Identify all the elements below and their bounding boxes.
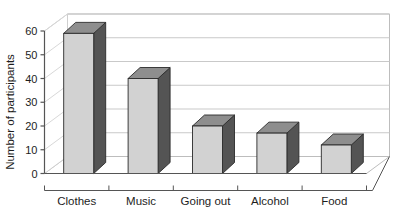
x-tick-label: Food bbox=[321, 195, 347, 207]
x-tick-label: Going out bbox=[181, 195, 232, 207]
y-tick-label: 0 bbox=[31, 168, 37, 180]
bar-front-face bbox=[193, 126, 223, 174]
y-axis-title: Number of participants bbox=[4, 54, 16, 170]
chart-figure: 0102030405060 ClothesMusicGoing outAlcoh… bbox=[0, 0, 398, 218]
bar-side-face bbox=[158, 68, 170, 174]
bar-front-face bbox=[257, 133, 287, 173]
y-tick-labels: 0102030405060 bbox=[25, 25, 37, 180]
bar-side-face bbox=[94, 22, 106, 173]
bar-front-face bbox=[64, 33, 94, 173]
y-tick-label: 50 bbox=[25, 49, 37, 61]
y-axis bbox=[41, 31, 45, 174]
y-tick-label: 40 bbox=[25, 73, 37, 85]
y-tick-label: 10 bbox=[25, 144, 37, 156]
bar-going-out bbox=[193, 115, 235, 174]
bar-clothes bbox=[64, 22, 106, 173]
bar-chart-3d: 0102030405060 ClothesMusicGoing outAlcoh… bbox=[0, 0, 398, 218]
x-tick-labels: ClothesMusicGoing outAlcoholFood bbox=[57, 195, 347, 207]
x-tick-label: Music bbox=[126, 195, 156, 207]
x-tick-label: Clothes bbox=[57, 195, 96, 207]
x-tick-label: Alcohol bbox=[251, 195, 289, 207]
bar-music bbox=[128, 68, 170, 174]
bar-front-face bbox=[128, 79, 158, 174]
bar-alcohol bbox=[257, 122, 299, 173]
y-tick-label: 30 bbox=[25, 96, 37, 108]
bar-food bbox=[321, 134, 363, 174]
y-tick-label: 60 bbox=[25, 25, 37, 37]
y-tick-label: 20 bbox=[25, 120, 37, 132]
bar-front-face bbox=[321, 145, 351, 174]
